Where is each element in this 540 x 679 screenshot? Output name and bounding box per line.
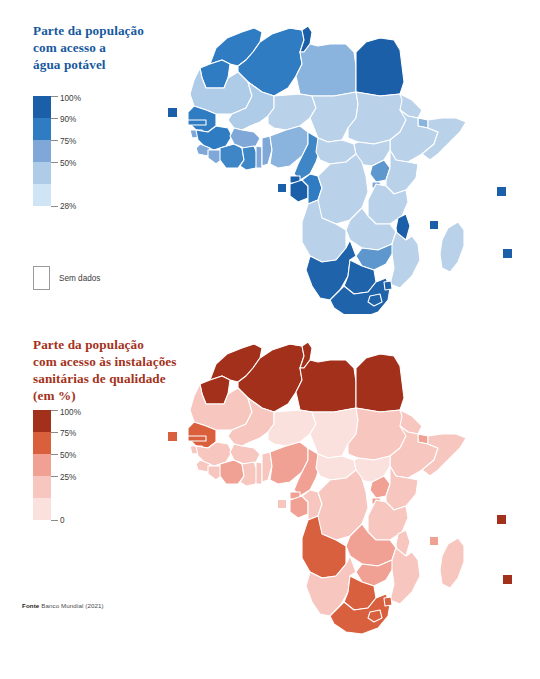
island-marker-sao-tome	[278, 184, 286, 192]
island-marker-seychelles	[497, 515, 506, 524]
water-legend-band-28[interactable]	[33, 184, 51, 206]
island-marker-mauritius	[503, 575, 512, 584]
sanitation-map[interactable]	[150, 320, 540, 670]
sanitation-legend-label-75: 75%	[60, 429, 76, 438]
water-legend-label-100: 100%	[60, 94, 81, 103]
infographic-page: Parte da população com acesso a água pot…	[0, 0, 540, 679]
water-tick-90	[51, 118, 58, 119]
no-data-swatch	[33, 266, 50, 290]
sanitation-legend-label-50: 50%	[60, 451, 76, 460]
source-text: Banco Mundial (2021)	[41, 602, 104, 609]
sanitation-legend-label-25: 25%	[60, 473, 76, 482]
country-niger	[268, 410, 316, 446]
sanitation-tick-75	[51, 432, 58, 433]
water-map[interactable]	[150, 4, 540, 314]
water-legend-label-75: 75%	[60, 137, 76, 146]
water-legend-band-100[interactable]	[33, 96, 51, 118]
country-libya	[296, 360, 356, 412]
source-prefix: Fonte	[22, 602, 39, 609]
no-data-label: Sem dados	[59, 274, 100, 283]
island-marker-comoros	[430, 537, 438, 545]
country-togo	[256, 462, 262, 484]
water-tick-50	[51, 162, 58, 163]
water-legend: 100% 90% 75% 50% 28%	[33, 96, 51, 206]
country-libya	[296, 44, 356, 96]
country-egypt	[356, 354, 404, 412]
island-marker-mauritius	[503, 249, 512, 258]
country-egypt	[356, 38, 404, 96]
country-ivory-coast	[220, 460, 244, 484]
island-marker-cape-verde	[168, 432, 177, 441]
sanitation-tick-100	[51, 410, 58, 411]
sanitation-map-countries	[188, 342, 466, 634]
country-niger	[268, 94, 316, 130]
water-legend-band-50[interactable]	[33, 162, 51, 184]
sanitation-tick-50	[51, 454, 58, 455]
country-madagascar	[440, 538, 464, 588]
country-eswatini	[384, 281, 392, 290]
sanitation-legend-label-100: 100%	[60, 408, 81, 417]
country-eswatini	[384, 597, 392, 606]
water-legend-bar: 100% 90% 75% 50% 28%	[33, 96, 51, 206]
country-gambia	[188, 436, 206, 441]
country-togo	[256, 146, 262, 168]
sanitation-tick-0	[51, 520, 58, 521]
country-ivory-coast	[220, 144, 244, 168]
island-marker-cape-verde	[168, 108, 177, 117]
country-gambia	[188, 120, 206, 125]
source-note: Fonte Banco Mundial (2021)	[22, 602, 104, 609]
water-map-countries	[188, 26, 466, 314]
no-data-key: Sem dados	[33, 266, 100, 290]
sanitation-legend-band-100[interactable]	[33, 410, 51, 432]
water-legend-band-75[interactable]	[33, 140, 51, 162]
sanitation-legend-band-50[interactable]	[33, 454, 51, 476]
sanitation-tick-25	[51, 476, 58, 477]
sanitation-legend-bar: 100% 75% 50% 25% 0	[33, 410, 51, 520]
island-marker-seychelles	[497, 187, 506, 196]
water-tick-28	[51, 206, 58, 207]
water-tick-75	[51, 140, 58, 141]
island-marker-sao-tome	[278, 500, 286, 508]
water-legend-label-50: 50%	[60, 159, 76, 168]
water-legend-label-28: 28%	[60, 202, 76, 211]
water-legend-band-90[interactable]	[33, 118, 51, 140]
sanitation-legend-band-75[interactable]	[33, 432, 51, 454]
island-marker-comoros	[430, 221, 438, 229]
sanitation-legend-band-25[interactable]	[33, 476, 51, 498]
sanitation-legend-label-0: 0	[60, 516, 65, 525]
sanitation-legend-band-0[interactable]	[33, 498, 51, 520]
country-madagascar	[440, 222, 464, 272]
water-tick-100	[51, 96, 58, 97]
sanitation-legend: 100% 75% 50% 25% 0	[33, 410, 51, 520]
water-legend-label-90: 90%	[60, 115, 76, 124]
